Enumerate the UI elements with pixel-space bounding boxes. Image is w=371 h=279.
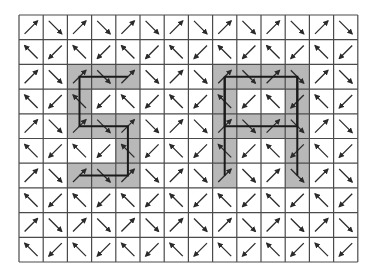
arrow-sw-icon bbox=[194, 243, 207, 256]
arrow-ne-icon bbox=[170, 169, 183, 182]
arrow-ne-icon bbox=[25, 218, 38, 231]
arrow-ne-icon bbox=[315, 169, 328, 182]
arrow-ne-icon bbox=[315, 21, 328, 34]
arrow-sw-icon bbox=[242, 46, 255, 59]
arrow-nw-icon bbox=[218, 243, 231, 256]
arrow-sw-icon bbox=[49, 243, 62, 256]
arrow-se-icon bbox=[291, 218, 304, 231]
arrow-nw-icon bbox=[170, 46, 183, 59]
arrow-ne-icon bbox=[170, 70, 183, 83]
arrow-ne-icon bbox=[25, 120, 38, 133]
arrow-sw-icon bbox=[49, 46, 62, 59]
arrow-se-icon bbox=[339, 21, 352, 34]
arrow-sw-icon bbox=[97, 243, 110, 256]
arrow-se-icon bbox=[49, 218, 62, 231]
arrow-sw-icon bbox=[339, 243, 352, 256]
arrow-nw-icon bbox=[267, 95, 280, 108]
arrow-se-icon bbox=[49, 21, 62, 34]
arrow-nw-icon bbox=[25, 144, 38, 157]
arrow-sw-icon bbox=[291, 46, 304, 59]
arrow-nw-icon bbox=[121, 243, 134, 256]
arrow-sw-icon bbox=[146, 194, 159, 207]
arrow-nw-icon bbox=[121, 95, 134, 108]
arrow-se-icon bbox=[49, 120, 62, 133]
arrow-ne-icon bbox=[315, 218, 328, 231]
arrow-nw-icon bbox=[121, 46, 134, 59]
arrow-nw-icon bbox=[73, 194, 86, 207]
arrow-ne-icon bbox=[121, 21, 134, 34]
arrow-se-icon bbox=[49, 70, 62, 83]
arrow-se-icon bbox=[97, 21, 110, 34]
arrow-se-icon bbox=[97, 218, 110, 231]
arrow-nw-icon bbox=[73, 144, 86, 157]
arrow-sw-icon bbox=[291, 243, 304, 256]
arrow-nw-icon bbox=[267, 46, 280, 59]
arrow-nw-icon bbox=[315, 95, 328, 108]
arrow-nw-icon bbox=[267, 144, 280, 157]
arrow-sw-icon bbox=[97, 144, 110, 157]
arrow-ne-icon bbox=[25, 21, 38, 34]
arrow-sw-icon bbox=[49, 95, 62, 108]
arrow-se-icon bbox=[291, 21, 304, 34]
arrow-nw-icon bbox=[73, 243, 86, 256]
arrow-se-icon bbox=[339, 218, 352, 231]
arrow-sw-icon bbox=[242, 243, 255, 256]
arrow-se-icon bbox=[49, 169, 62, 182]
arrow-ne-icon bbox=[25, 70, 38, 83]
arrow-nw-icon bbox=[315, 144, 328, 157]
arrow-se-icon bbox=[194, 70, 207, 83]
arrow-se-icon bbox=[339, 120, 352, 133]
arrow-nw-icon bbox=[315, 243, 328, 256]
arrow-sw-icon bbox=[242, 194, 255, 207]
arrow-sw-icon bbox=[242, 95, 255, 108]
arrow-nw-icon bbox=[170, 144, 183, 157]
arrow-nw-icon bbox=[267, 194, 280, 207]
arrow-se-icon bbox=[194, 120, 207, 133]
arrow-nw-icon bbox=[218, 194, 231, 207]
arrow-ne-icon bbox=[218, 21, 231, 34]
vector-field-diagram bbox=[0, 0, 371, 279]
arrow-nw-icon bbox=[218, 46, 231, 59]
arrow-nw-icon bbox=[267, 243, 280, 256]
arrow-ne-icon bbox=[73, 218, 86, 231]
arrow-nw-icon bbox=[121, 194, 134, 207]
diagram-canvas bbox=[0, 0, 371, 279]
arrow-se-icon bbox=[146, 169, 159, 182]
arrow-ne-icon bbox=[267, 169, 280, 182]
arrow-sw-icon bbox=[339, 46, 352, 59]
arrow-se-icon bbox=[339, 169, 352, 182]
arrow-ne-icon bbox=[315, 70, 328, 83]
arrow-sw-icon bbox=[194, 95, 207, 108]
arrow-nw-icon bbox=[315, 194, 328, 207]
grid-lines bbox=[19, 15, 358, 262]
arrow-nw-icon bbox=[170, 243, 183, 256]
arrow-se-icon bbox=[194, 21, 207, 34]
arrow-sw-icon bbox=[146, 144, 159, 157]
arrow-se-icon bbox=[146, 70, 159, 83]
arrow-sw-icon bbox=[194, 46, 207, 59]
arrow-se-icon bbox=[194, 169, 207, 182]
arrow-sw-icon bbox=[97, 194, 110, 207]
arrow-nw-icon bbox=[170, 95, 183, 108]
arrow-sw-icon bbox=[242, 144, 255, 157]
arrow-sw-icon bbox=[339, 95, 352, 108]
arrow-sw-icon bbox=[146, 46, 159, 59]
arrow-nw-icon bbox=[315, 46, 328, 59]
arrow-nw-icon bbox=[170, 194, 183, 207]
arrow-ne-icon bbox=[170, 120, 183, 133]
arrow-ne-icon bbox=[170, 21, 183, 34]
arrow-se-icon bbox=[146, 218, 159, 231]
arrow-sw-icon bbox=[194, 194, 207, 207]
arrow-se-icon bbox=[146, 120, 159, 133]
arrow-sw-icon bbox=[339, 194, 352, 207]
arrow-ne-icon bbox=[25, 169, 38, 182]
arrow-ne-icon bbox=[121, 218, 134, 231]
arrow-se-icon bbox=[339, 70, 352, 83]
arrow-ne-icon bbox=[73, 21, 86, 34]
arrow-sw-icon bbox=[49, 144, 62, 157]
arrow-se-icon bbox=[242, 169, 255, 182]
arrow-se-icon bbox=[146, 21, 159, 34]
arrow-ne-icon bbox=[170, 218, 183, 231]
arrow-ne-icon bbox=[267, 21, 280, 34]
arrow-se-icon bbox=[242, 21, 255, 34]
